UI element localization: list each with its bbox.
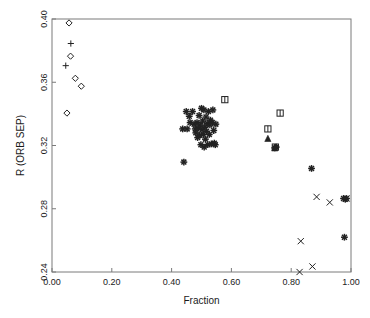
x-tick-label: 0.60	[223, 277, 241, 287]
marker-diamond	[78, 83, 84, 89]
marker-diamond	[66, 20, 72, 26]
series-triangle	[265, 135, 278, 151]
y-tick-label: 0.40	[39, 10, 49, 28]
y-tick-label: 0.24	[39, 263, 49, 281]
y-tick-label: 0.36	[39, 73, 49, 91]
y-tick-label: 0.28	[39, 200, 49, 218]
y-axis-label: R (ORB SEP)	[15, 115, 26, 176]
x-tick-label: 0.80	[282, 277, 300, 287]
series-square	[222, 97, 284, 151]
plot-canvas: 0.000.200.400.600.801.00Fraction0.240.28…	[0, 0, 370, 318]
series-asterisk	[179, 105, 350, 241]
series-diamond	[64, 20, 85, 116]
scatter-plot-figure: 0.000.200.400.600.801.00Fraction0.240.28…	[0, 0, 370, 318]
x-tick-label: 0.20	[103, 277, 121, 287]
marker-triangle	[265, 135, 271, 141]
marker-diamond	[72, 75, 78, 81]
x-tick-label: 1.00	[342, 277, 360, 287]
marker-diamond	[64, 110, 70, 116]
marker-diamond	[67, 53, 73, 59]
x-tick-label: 0.40	[163, 277, 181, 287]
x-axis-label: Fraction	[183, 295, 219, 306]
y-tick-label: 0.32	[39, 137, 49, 155]
series-cross	[296, 194, 349, 275]
